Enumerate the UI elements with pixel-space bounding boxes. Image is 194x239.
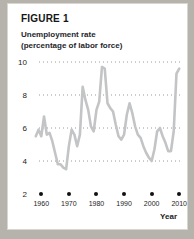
x-axis-tick-marker [177,192,181,196]
x-axis-tick-marker [67,192,71,196]
x-axis-title: Year [160,212,177,221]
y-axis-tick-label: 8 [13,91,27,100]
x-axis-tick-marker [150,192,154,196]
x-axis-tick-label: 2000 [137,200,167,207]
x-axis-tick-marker [122,192,126,196]
y-axis-tick-label: 2 [13,190,27,199]
y-axis-tick-label: 4 [13,157,27,166]
x-axis-tick-label: 1960 [26,200,56,207]
figure-card: FIGURE 1 Unemployment rate (percentage o… [8,4,187,229]
y-axis-tick-label: 6 [13,124,27,133]
data-line-unemployment-rate [36,67,179,169]
chart-plot-area: 108642196019701980199020002010 [8,4,187,229]
x-axis-tick-label: 1980 [81,200,111,207]
x-axis-tick-marker [39,192,43,196]
x-axis-tick-label: 1970 [54,200,84,207]
x-axis-tick-label: 1990 [109,200,139,207]
x-axis-tick-label: 2010 [164,200,194,207]
y-axis-tick-label: 10 [13,58,27,67]
x-axis-tick-marker [94,192,98,196]
